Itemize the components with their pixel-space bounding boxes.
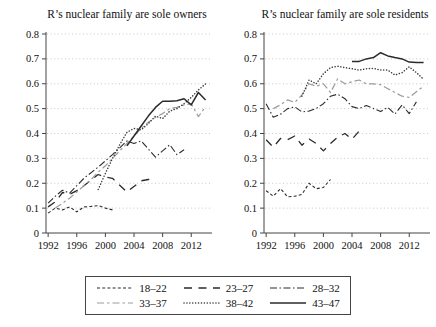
legend-label: 43–47	[312, 297, 340, 309]
panel-title-owners: R’s nuclear family are sole owners	[0, 0, 218, 26]
series-line-38-42	[98, 84, 205, 190]
legend-label: 38–42	[226, 297, 254, 309]
svg-text:1996: 1996	[66, 240, 87, 251]
svg-text:0.4: 0.4	[26, 128, 40, 139]
svg-text:0.7: 0.7	[244, 53, 257, 64]
svg-text:0.6: 0.6	[244, 78, 257, 89]
legend-sample-line	[96, 298, 134, 308]
svg-text:1996: 1996	[284, 240, 305, 251]
legend-item-38-42: 38–42	[183, 297, 254, 309]
legend-sample-line	[96, 283, 134, 293]
svg-text:0.3: 0.3	[26, 153, 39, 164]
figure: R’s nuclear family are sole owners 00.10…	[0, 0, 436, 327]
panel-title-residents: R’s nuclear family are sole residents	[218, 0, 436, 26]
series-line-18-22	[266, 180, 330, 197]
svg-text:0.2: 0.2	[26, 178, 39, 189]
svg-text:2012: 2012	[181, 240, 202, 251]
legend-label: 28–32	[312, 282, 340, 294]
svg-text:0: 0	[252, 228, 257, 239]
svg-text:0.1: 0.1	[26, 203, 39, 214]
legend-sample-line	[269, 298, 307, 308]
panels-row: R’s nuclear family are sole owners 00.10…	[0, 0, 436, 271]
svg-text:2004: 2004	[124, 240, 146, 251]
svg-text:0.7: 0.7	[26, 53, 39, 64]
svg-text:2008: 2008	[370, 240, 391, 251]
series-line-43-47	[352, 53, 424, 63]
svg-text:2008: 2008	[152, 240, 173, 251]
legend-label: 23–27	[226, 282, 254, 294]
legend-sample-line	[183, 298, 221, 308]
svg-text:0.6: 0.6	[26, 78, 39, 89]
legend-label: 33–37	[139, 297, 167, 309]
svg-text:0.5: 0.5	[244, 103, 257, 114]
series-line-43-47	[127, 93, 206, 146]
legend-sample-line	[183, 283, 221, 293]
legend-item-18-22: 18–22	[96, 282, 167, 294]
svg-text:1992: 1992	[256, 240, 277, 251]
legend-wrap: 18–2223–2728–3233–3738–4243–47	[0, 276, 436, 315]
legend-item-28-32: 28–32	[269, 282, 340, 294]
svg-text:0.2: 0.2	[244, 178, 257, 189]
svg-text:2012: 2012	[399, 240, 420, 251]
chart-sole-owners: 00.10.20.30.40.50.60.70.8199219962000200…	[0, 26, 218, 271]
series-line-38-42	[302, 66, 424, 96]
svg-text:2000: 2000	[95, 240, 116, 251]
svg-text:0.5: 0.5	[26, 103, 39, 114]
series-line-28-32	[266, 94, 416, 117]
legend-label: 18–22	[139, 282, 167, 294]
legend-item-43-47: 43–47	[269, 297, 340, 309]
svg-text:0.3: 0.3	[244, 153, 257, 164]
svg-text:0: 0	[34, 228, 39, 239]
svg-text:2004: 2004	[342, 240, 364, 251]
panel-sole-residents: R’s nuclear family are sole residents 00…	[218, 0, 436, 271]
svg-text:1992: 1992	[38, 240, 59, 251]
panel-sole-owners: R’s nuclear family are sole owners 00.10…	[0, 0, 218, 271]
svg-text:2000: 2000	[313, 240, 334, 251]
legend-sample-line	[269, 283, 307, 293]
legend: 18–2223–2728–3233–3738–4243–47	[85, 276, 351, 315]
chart-sole-residents: 00.10.20.30.40.50.60.70.8199219962000200…	[218, 26, 436, 271]
svg-text:0.4: 0.4	[244, 128, 258, 139]
svg-text:0.8: 0.8	[244, 29, 257, 40]
svg-text:0.8: 0.8	[26, 29, 39, 40]
svg-text:0.1: 0.1	[244, 203, 257, 214]
series-line-33-37	[55, 104, 205, 208]
legend-item-23-27: 23–27	[183, 282, 254, 294]
legend-item-33-37: 33–37	[96, 297, 167, 309]
